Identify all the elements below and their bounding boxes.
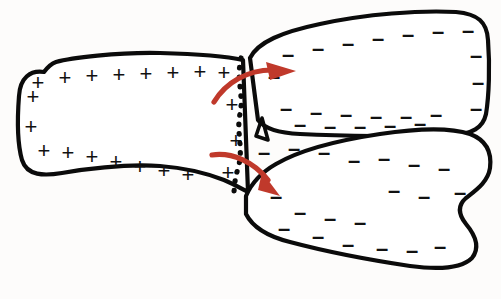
positive-charge-mark: + (194, 59, 207, 84)
negative-charge-mark: – (288, 136, 300, 161)
negative-charge-mark: – (354, 114, 366, 139)
positive-charge-mark: + (86, 63, 99, 88)
negative-charge-mark: – (372, 26, 384, 51)
negative-charge-mark: – (454, 180, 466, 205)
negative-charge-mark: – (324, 206, 336, 231)
negative-charge-mark: – (312, 224, 324, 249)
negative-charge-mark: – (430, 102, 442, 127)
negative-charge-mark: – (278, 216, 290, 241)
positive-charge-mark: + (113, 62, 126, 87)
negative-charge-mark: – (434, 234, 446, 259)
negative-charge-mark: – (312, 36, 324, 61)
negative-charge-mark: – (418, 184, 430, 209)
positive-charge-mark: + (218, 60, 231, 85)
negative-charge-mark: – (432, 19, 444, 44)
negative-charge-mark: – (438, 156, 450, 181)
negative-charge-mark: – (376, 236, 388, 261)
positive-charge-mark: + (86, 144, 99, 169)
negative-charge-mark: – (342, 232, 354, 257)
negative-charge-mark: – (462, 18, 474, 43)
negative-charge-mark: – (414, 111, 426, 136)
positive-charge-mark: + (140, 61, 153, 86)
negative-charge-mark: – (408, 152, 420, 177)
negative-charge-mark: – (378, 146, 390, 171)
negative-charge-mark: – (348, 148, 360, 173)
positive-charge-mark: + (167, 60, 180, 85)
negative-charge-mark: – (388, 178, 400, 203)
negative-charge-mark: – (294, 200, 306, 225)
negative-charge-mark: – (280, 96, 292, 121)
negative-charge-mark: – (472, 70, 484, 95)
negative-charge-mark: – (370, 104, 382, 129)
positive-charge-mark: + (182, 162, 195, 187)
negative-charge-mark: – (340, 102, 352, 127)
positive-charge-mark: + (226, 92, 239, 117)
positive-charge-mark: + (158, 158, 171, 183)
negative-charge-mark: – (282, 42, 294, 67)
positive-charge-mark: + (59, 65, 72, 90)
positive-charge-mark: + (25, 114, 38, 139)
negative-charge-mark: – (384, 113, 396, 138)
negative-charge-mark: – (470, 96, 482, 121)
negative-charge-mark: – (470, 43, 482, 68)
negative-charge-mark: – (402, 22, 414, 47)
negative-charge-mark: – (294, 112, 306, 137)
negative-charge-mark: – (400, 104, 412, 129)
negative-charge-mark: – (310, 100, 322, 125)
positive-charge-mark: + (32, 70, 45, 95)
negative-charge-mark: – (354, 210, 366, 235)
positive-charge-mark: + (62, 140, 75, 165)
positive-charge-mark: + (110, 149, 123, 174)
negative-charge-mark: – (342, 31, 354, 56)
negative-charge-mark: – (406, 238, 418, 263)
positive-charge-mark: + (134, 154, 147, 179)
positive-charge-mark: + (230, 128, 243, 153)
cell-junction-diagram: ++++++++++++++++++++ –––––––––––––––––––… (0, 0, 501, 299)
negative-charge-mark: – (318, 140, 330, 165)
negative-charge-mark: – (324, 114, 336, 139)
positive-charge-mark: + (38, 138, 51, 163)
figure-root: ++++++++++++++++++++ –––––––––––––––––––… (0, 0, 501, 299)
negative-charge-mark: – (258, 140, 270, 165)
